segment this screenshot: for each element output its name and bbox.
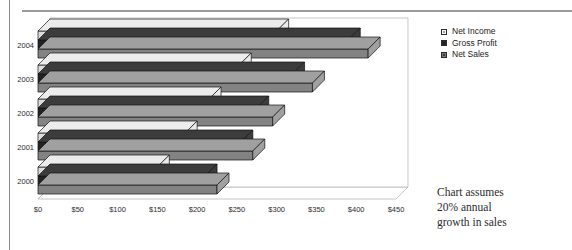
x-axis-tick: $350	[296, 205, 336, 214]
x-axis-tick: $0	[18, 205, 58, 214]
y-axis-tick: 2001	[4, 143, 34, 152]
legend-swatch-gross-profit	[441, 40, 447, 46]
x-axis-tick: $450	[376, 205, 416, 214]
y-axis-tick: 2004	[4, 41, 34, 50]
legend-swatch-net-sales	[441, 52, 447, 58]
legend-item-net-sales[interactable]: Net Sales	[441, 49, 497, 61]
x-axis-tick: $300	[257, 205, 297, 214]
chart-screenshot: Net Income Gross Profit Net Sales Chart …	[0, 0, 572, 250]
legend-label-gross-profit: Gross Profit	[452, 38, 497, 50]
x-axis-tick: $50	[58, 205, 98, 214]
y-axis-tick: 2003	[4, 75, 34, 84]
legend-label-net-income: Net Income	[452, 26, 495, 38]
y-axis-tick: 2000	[4, 177, 34, 186]
legend-item-gross-profit[interactable]: Gross Profit	[441, 38, 497, 50]
x-axis-tick: $250	[217, 205, 257, 214]
legend-item-net-income[interactable]: Net Income	[441, 26, 497, 38]
legend-label-net-sales: Net Sales	[452, 49, 489, 61]
annotation-line-1: Chart assumes	[437, 185, 567, 200]
x-axis-tick: $100	[98, 205, 138, 214]
x-axis-tick: $150	[137, 205, 177, 214]
chart-annotation: Chart assumes 20% annual growth in sales	[437, 185, 567, 230]
chart-legend: Net Income Gross Profit Net Sales	[441, 26, 497, 61]
legend-swatch-net-income	[441, 29, 447, 35]
y-axis-tick: 2002	[4, 109, 34, 118]
annotation-line-2: 20% annual	[437, 200, 567, 215]
x-axis-tick: $400	[336, 205, 376, 214]
x-axis-tick: $200	[177, 205, 217, 214]
annotation-line-3: growth in sales	[437, 215, 567, 230]
